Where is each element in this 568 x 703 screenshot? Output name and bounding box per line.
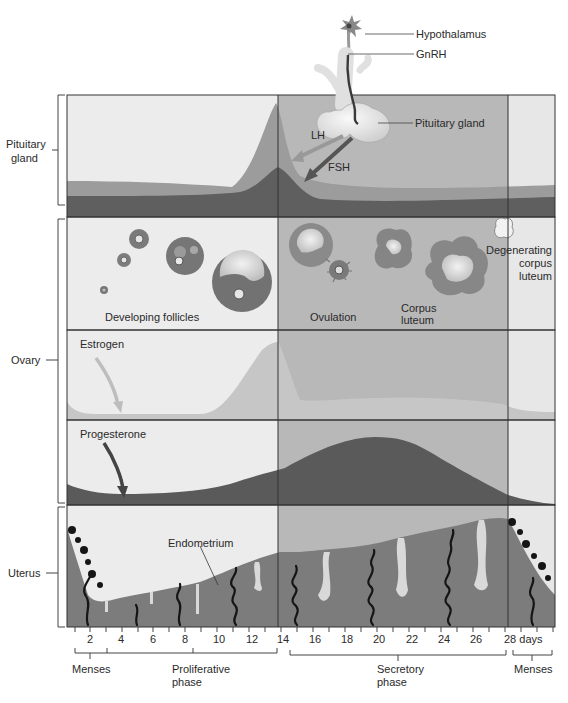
- day-tick: 18: [341, 633, 353, 645]
- uterus-row-label: Uterus: [8, 567, 40, 579]
- endometrium-label: Endometrium: [168, 537, 233, 549]
- degenerating-label-line1: Degenerating: [460, 244, 552, 256]
- day-tick: 22: [406, 633, 418, 645]
- developing-follicles-label: Developing follicles: [105, 311, 199, 323]
- day-tick: 12: [246, 633, 258, 645]
- gnrh-label: GnRH: [416, 48, 447, 60]
- lh-label: LH: [311, 129, 325, 141]
- pituitary-gland-label: Pituitary gland: [415, 117, 485, 129]
- phase-menses-start: Menses: [72, 663, 111, 675]
- phase-secretory-line2: phase: [377, 676, 407, 688]
- menstrual-cycle-diagram: [0, 0, 568, 703]
- corpus-luteum-small-icon: [375, 228, 412, 268]
- phase-brackets: [75, 648, 552, 661]
- fsh-label: FSH: [328, 161, 350, 173]
- day-tick: 4: [118, 633, 124, 645]
- day-tick: 16: [309, 633, 321, 645]
- growing-follicle-icon: [166, 237, 204, 275]
- day-tick-28: 28 days: [504, 633, 543, 645]
- corpus-luteum-label-line1: Corpus: [401, 302, 436, 314]
- degenerating-corpus-luteum-icon: [495, 218, 514, 238]
- row-brackets: [46, 95, 65, 627]
- day-tick: 24: [438, 633, 450, 645]
- day-tick: 10: [213, 633, 225, 645]
- ovulation-label: Ovulation: [310, 311, 356, 323]
- day-tick: 2: [87, 633, 93, 645]
- estrogen-label: Estrogen: [80, 338, 124, 350]
- progesterone-label: Progesterone: [80, 428, 146, 440]
- hypothalamus-label: Hypothalamus: [416, 28, 486, 40]
- day-tick: 26: [470, 633, 482, 645]
- day-tick: 6: [150, 633, 156, 645]
- day-axis-ticks: [75, 627, 553, 632]
- degenerating-label-line3: luteum: [460, 270, 552, 282]
- day-tick: 14: [277, 633, 289, 645]
- pituitary-row-label-line2: gland: [11, 152, 38, 164]
- phase-proliferative-line2: phase: [172, 676, 202, 688]
- day-tick: 20: [373, 633, 385, 645]
- degenerating-label-line2: corpus: [460, 257, 552, 269]
- phase-secretory-line1: Secretory: [377, 663, 424, 675]
- phase-proliferative-line1: Proliferative: [172, 663, 230, 675]
- ovary-row-label: Ovary: [11, 354, 40, 366]
- corpus-luteum-label-line2: luteum: [401, 314, 434, 326]
- day-tick: 8: [182, 633, 188, 645]
- pituitary-row-label-line1: Pituitary: [6, 138, 51, 150]
- phase-menses-end: Menses: [514, 663, 553, 675]
